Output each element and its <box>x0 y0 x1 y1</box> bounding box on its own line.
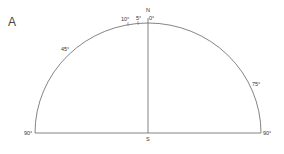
degree-10-label: 10° <box>121 16 129 22</box>
north-label: N <box>146 7 150 13</box>
degree-90-left-label: 90° <box>24 130 32 136</box>
semicircle-diagram: A N 0° 5° 10° 45° 75° 90° 90° S <box>0 0 284 154</box>
panel-label: A <box>8 15 16 29</box>
degree-90-right-label: 90° <box>263 130 271 136</box>
degree-45-label: 45° <box>61 46 69 52</box>
south-label: S <box>146 136 150 142</box>
degree-75-label: 75° <box>252 81 260 87</box>
degree-0-label: 0° <box>149 15 154 21</box>
degree-5-label: 5° <box>136 15 141 21</box>
